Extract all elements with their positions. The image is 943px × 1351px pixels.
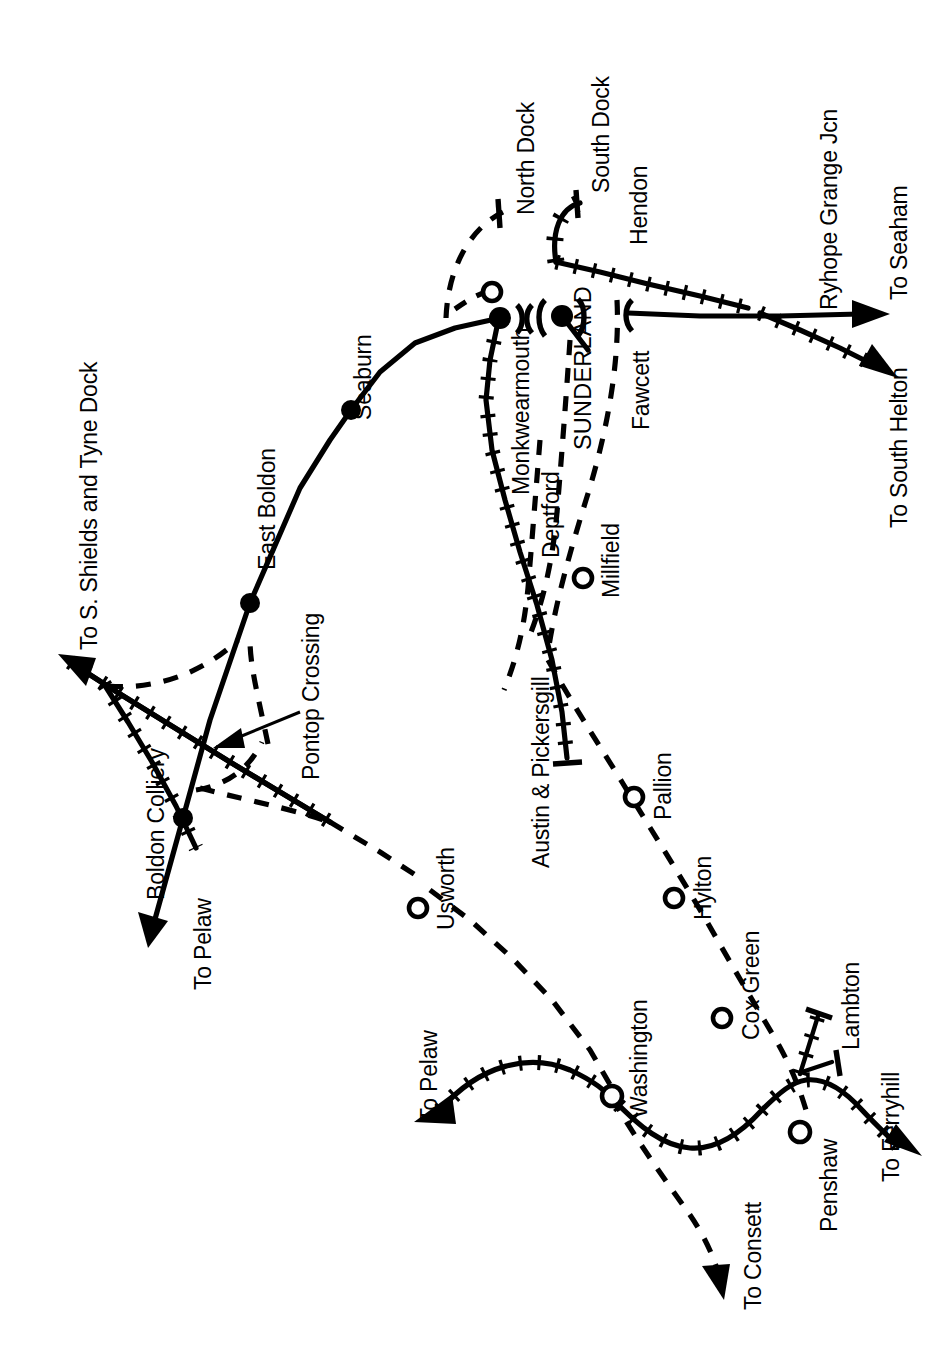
station-node-pallion — [625, 788, 643, 806]
label-millfield: Millfield — [600, 523, 623, 598]
track-pallion-hylton-coxgreen-dashed — [548, 660, 806, 1110]
label-south-dock: South Dock — [590, 76, 613, 193]
track-usworth-washington-dashed — [330, 822, 612, 1088]
label-lambton: Lambton — [840, 962, 863, 1050]
railway-map: To S. Shields and Tyne Dock East Boldon … — [0, 0, 943, 1351]
track-tyne-dock-line — [58, 654, 330, 822]
label-fawcett: Fawcett — [630, 351, 653, 430]
label-cox-green: Cox Green — [740, 931, 763, 1040]
track-washington-penshaw-main — [414, 1062, 922, 1156]
track-south-helton-branch — [760, 313, 898, 378]
label-pallion: Pallion — [652, 752, 675, 820]
station-node-penshaw — [790, 1122, 810, 1142]
label-sunderland: SUNDERLAND — [572, 286, 596, 450]
label-boldon-colliery: Boldon Colliery — [145, 748, 168, 900]
label-usworth: Usworth — [435, 847, 458, 930]
label-washington: Washington — [628, 999, 651, 1118]
label-pontop-crossing: Pontop Crossing — [300, 613, 323, 780]
track-coast-main — [152, 318, 500, 930]
label-penshaw: Penshaw — [818, 1139, 841, 1232]
label-deptford: Deptford — [540, 471, 563, 558]
label-to-s-shields-and-tyne-dock: To S. Shields and Tyne Dock — [78, 362, 101, 650]
label-to-pelaw-north: To Pelaw — [192, 898, 215, 990]
track-sunderland-seaham — [626, 300, 890, 331]
station-node-millfield — [574, 569, 592, 587]
label-ryhope-grange-jcn: Ryhope Grange Jcn — [818, 109, 841, 310]
label-to-south-helton: To South Helton — [888, 367, 911, 528]
track-lambton-branch — [800, 1009, 840, 1076]
station-node-hylton — [665, 889, 683, 907]
label-north-dock: North Dock — [515, 102, 538, 215]
label-austin-and-pickersgill: Austin & Pickersgill — [530, 676, 553, 868]
station-node-monkwearmouth — [489, 307, 511, 329]
label-east-boldon: East Boldon — [256, 448, 279, 570]
station-node-washington — [602, 1086, 622, 1106]
label-hendon: Hendon — [628, 166, 651, 245]
label-seaburn: Seaburn — [352, 334, 375, 420]
label-monkwearmouth: Monkwearmouth — [510, 328, 533, 495]
station-node-cox-green — [713, 1009, 731, 1027]
label-to-seaham: To Seaham — [888, 185, 911, 300]
label-to-consett: To Consett — [742, 1202, 765, 1310]
station-node-east-boldon — [240, 593, 260, 613]
station-node-usworth — [409, 899, 427, 917]
track-to-consett-dashed — [612, 1098, 730, 1300]
label-to-ferryhill: To Ferryhill — [880, 1072, 903, 1182]
railway-network-svg — [0, 0, 943, 1351]
station-node-unlabelled — [483, 283, 501, 301]
station-node-boldon-colliery — [173, 808, 193, 828]
label-to-pelaw-south: To Pelaw — [418, 1030, 441, 1122]
arrow-to-pelaw-north — [138, 912, 168, 948]
pontop-crossing-leader — [213, 712, 300, 748]
label-hylton: Hylton — [692, 856, 715, 920]
